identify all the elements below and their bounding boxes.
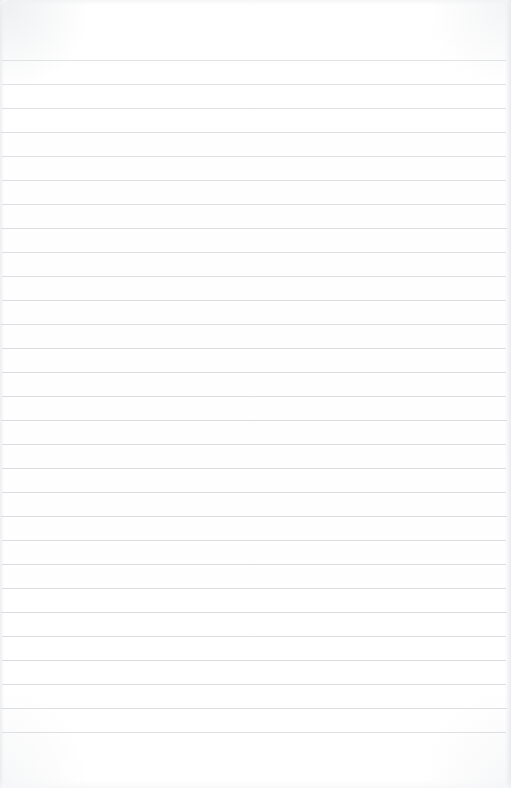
notebook-page [0,0,511,788]
writing-area[interactable] [0,60,511,733]
